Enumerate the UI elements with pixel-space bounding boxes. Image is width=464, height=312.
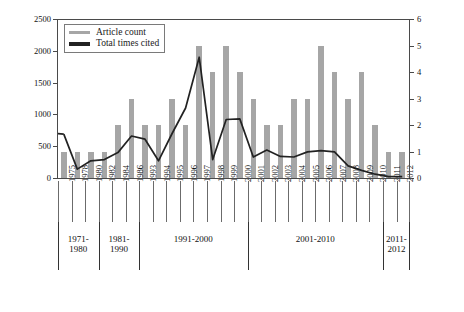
x-tick-label: 2004 bbox=[298, 165, 307, 182]
x-tick-label: 1984 bbox=[122, 165, 131, 182]
axis-line bbox=[57, 19, 409, 20]
x-label-separator bbox=[99, 181, 100, 222]
x-label-separator bbox=[397, 181, 398, 222]
x-label-separator bbox=[207, 181, 208, 222]
x-label-separator bbox=[302, 181, 303, 222]
x-tick-label: 2006 bbox=[325, 165, 334, 182]
x-tick-label: 1980 bbox=[95, 165, 104, 182]
y-tick-label-left: 500 bbox=[13, 142, 51, 151]
x-label-separator bbox=[288, 181, 289, 222]
y-tick-label-right: 6 bbox=[417, 15, 421, 24]
y-tick-label-right: 0 bbox=[417, 174, 421, 183]
group-separator bbox=[248, 222, 249, 270]
x-label-separator bbox=[166, 181, 167, 222]
x-tick-label: 2012 bbox=[406, 165, 415, 182]
legend-swatch bbox=[69, 42, 90, 46]
group-label: 1971-1980 bbox=[58, 234, 99, 254]
x-label-separator bbox=[329, 181, 330, 222]
x-label-separator bbox=[72, 181, 73, 222]
x-label-separator bbox=[356, 181, 357, 222]
group-label: 2011-2012 bbox=[383, 234, 410, 254]
x-tick-label: 1982 bbox=[108, 165, 117, 182]
x-label-separator bbox=[234, 181, 235, 222]
x-tick-label: 1997 bbox=[203, 165, 212, 182]
axis-line bbox=[57, 19, 58, 178]
axis-line bbox=[409, 19, 410, 178]
x-label-separator bbox=[369, 181, 370, 222]
group-separator bbox=[139, 222, 140, 270]
y-tick-label-right: 5 bbox=[417, 42, 421, 51]
line-path bbox=[64, 57, 402, 177]
x-label-separator bbox=[275, 181, 276, 222]
x-tick-label: 1986 bbox=[136, 165, 145, 182]
y-tick-label-right: 3 bbox=[417, 95, 421, 104]
x-tick-label: 1993 bbox=[149, 165, 158, 182]
y-tick-label-left: 1500 bbox=[13, 79, 51, 88]
x-label-separator bbox=[58, 181, 59, 222]
x-label-separator bbox=[409, 181, 410, 222]
x-tick-label: 1996 bbox=[190, 165, 199, 182]
x-tick-label: 1994 bbox=[163, 165, 172, 182]
x-label-separator bbox=[383, 181, 384, 222]
legend-label: Total times cited bbox=[96, 39, 159, 49]
y-tick-label-right: 1 bbox=[417, 148, 421, 157]
x-label-separator bbox=[112, 181, 113, 222]
x-tick-label: 2005 bbox=[312, 165, 321, 182]
x-tick-label: 2007 bbox=[339, 165, 348, 182]
x-label-separator bbox=[126, 181, 127, 222]
x-label-separator bbox=[248, 181, 249, 222]
x-tick-label: 2011 bbox=[393, 165, 402, 182]
x-tick-label: 2008 bbox=[352, 165, 361, 182]
y-tick-label-left: 1000 bbox=[13, 110, 51, 119]
x-tick-label: 2000 bbox=[244, 165, 253, 182]
y-tick-label-right: 2 bbox=[417, 121, 421, 130]
x-label-separator bbox=[85, 181, 86, 222]
x-label-separator bbox=[315, 181, 316, 222]
group-label: 1991-2000 bbox=[139, 234, 247, 244]
legend-swatch bbox=[69, 31, 90, 34]
group-label: 2001-2010 bbox=[248, 234, 383, 244]
chart-legend: Article countTotal times cited bbox=[64, 24, 165, 53]
group-label: 1981-1990 bbox=[99, 234, 140, 254]
x-label-separator bbox=[180, 181, 181, 222]
x-tick-label: 2009 bbox=[366, 165, 375, 182]
x-tick-label: 1998 bbox=[217, 165, 226, 182]
x-tick-label: 1978 bbox=[81, 165, 90, 182]
x-tick-label: 2001 bbox=[257, 165, 266, 182]
x-label-separator bbox=[261, 181, 262, 222]
x-tick-label: 1999 bbox=[230, 165, 239, 182]
y-tick-label-left: 2500 bbox=[13, 15, 51, 24]
line-lead-in bbox=[58, 134, 64, 135]
legend-item: Total times cited bbox=[69, 38, 159, 49]
x-tick-label: 1975 bbox=[68, 165, 77, 182]
x-label-separator bbox=[221, 181, 222, 222]
x-label-separator bbox=[342, 181, 343, 222]
x-label-separator bbox=[193, 181, 194, 222]
y-tick-label-left: 2000 bbox=[13, 47, 51, 56]
legend-label: Article count bbox=[96, 28, 146, 38]
x-label-separator bbox=[139, 181, 140, 222]
y-tick-label-left: 0 bbox=[13, 174, 51, 183]
legend-item: Article count bbox=[69, 27, 159, 38]
x-tick-label: 2003 bbox=[284, 165, 293, 182]
axis-line bbox=[57, 178, 409, 179]
figure: 05001000150020002500 0123456 Article cou… bbox=[0, 0, 464, 312]
x-tick-label: 2002 bbox=[271, 165, 280, 182]
x-label-separator bbox=[153, 181, 154, 222]
x-tick-label: 2010 bbox=[379, 165, 388, 182]
y-tick-label-right: 4 bbox=[417, 68, 421, 77]
group-separator bbox=[409, 222, 410, 270]
x-tick-label: 1995 bbox=[176, 165, 185, 182]
